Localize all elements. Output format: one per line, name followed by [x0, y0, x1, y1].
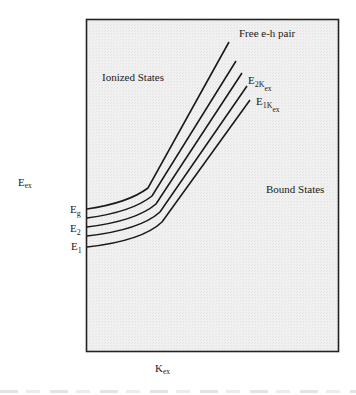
caption-remnant [0, 390, 356, 393]
x-axis-sub: ex [163, 367, 170, 376]
e2k-subsub: ex [265, 84, 272, 93]
y-axis-label: Eex [18, 176, 32, 190]
y-axis-sub: ex [25, 181, 32, 190]
level-label-eg: Eg [70, 203, 81, 218]
e1-sub: 1 [78, 246, 82, 255]
e2-sub: 2 [77, 228, 81, 237]
free-eh-pair-label: Free e-h pair [239, 27, 296, 39]
level-label-e2: E2 [70, 222, 81, 237]
exciton-diagram: Ionized States Bound States Free e-h pai… [0, 0, 356, 395]
ionized-states-label: Ionized States [102, 71, 164, 83]
e2k-sub: 2K [255, 80, 265, 89]
e1k-sub: 1K [263, 101, 273, 110]
bound-states-label: Bound States [266, 183, 324, 195]
x-axis-main: K [155, 362, 163, 374]
e1k-subsub: ex [273, 105, 280, 114]
eg-sub: g [77, 209, 81, 218]
x-axis-label: Kex [155, 362, 170, 376]
level-label-e1: E1 [71, 240, 82, 255]
